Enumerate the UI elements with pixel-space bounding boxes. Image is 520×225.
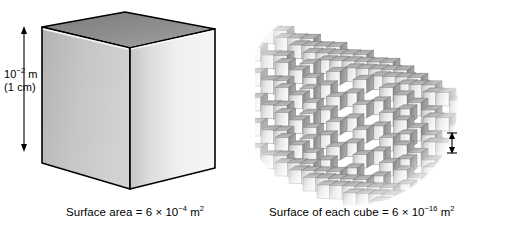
left-dimension-label: 10−2 m (1 cm): [4, 68, 38, 94]
figure-root: 10−2 m (1 cm) Surface area = 6 × 10−4 m2: [0, 0, 520, 224]
small-cube-front: [261, 130, 275, 144]
right-caption-prefix: Surface of each cube = 6 × 10: [269, 206, 425, 218]
left-caption-suffix: m: [187, 206, 200, 218]
left-dimension-primary: 10−2 m: [4, 68, 38, 81]
small-cube-front: [450, 100, 464, 114]
small-cube-front: [317, 185, 331, 199]
small-cube-front: [261, 55, 275, 69]
small-cube-front: [275, 88, 289, 102]
left-dimension-exponent: −2: [16, 66, 25, 75]
small-cube-front: [255, 23, 261, 37]
right-caption-suffix: m: [437, 206, 450, 218]
left-caption-prefix: Surface area = 6 × 10: [66, 206, 178, 218]
left-dimension-secondary: (1 cm): [4, 81, 38, 94]
small-cube-front: [275, 113, 289, 127]
small-cube-front: [436, 143, 450, 157]
small-cube-front: [275, 138, 289, 152]
left-caption: Surface area = 6 × 10−4 m2: [66, 206, 204, 218]
small-cube-front: [450, 175, 464, 189]
small-cube-front: [261, 30, 275, 44]
small-cube-front: [436, 168, 450, 182]
cube-cluster-group: [255, 18, 470, 224]
small-cube-front: [436, 193, 450, 207]
small-cube: [450, 96, 471, 114]
small-cube-front: [330, 186, 344, 200]
small-cube-front: [261, 105, 275, 119]
small-cube-front: [356, 194, 370, 208]
single-cube-panel: 10−2 m (1 cm) Surface area = 6 × 10−4 m2: [0, 0, 255, 224]
small-cube-front: [275, 38, 289, 52]
right-caption-suffix-exponent: 2: [450, 204, 454, 213]
small-cube-front: [303, 178, 317, 192]
left-caption-exponent: −4: [178, 204, 187, 213]
subdivided-cubes-panel: 10−8 m (10−6 cm): [255, 0, 520, 224]
cube-cluster-illustration: [255, 0, 520, 224]
small-cube-front: [255, 98, 261, 112]
right-caption-exponent: −16: [425, 204, 438, 213]
left-dimension-unit: m: [25, 68, 37, 80]
small-cube-front: [289, 170, 303, 184]
small-cube-front: [436, 118, 450, 132]
small-cube-front: [436, 93, 450, 107]
small-cube-front: [344, 193, 358, 207]
small-cube-front: [261, 155, 275, 169]
right-caption: Surface of each cube = 6 × 10−16 m2: [269, 206, 455, 218]
cube-front-face: [130, 29, 215, 189]
small-cube-front: [275, 63, 289, 77]
small-cube-front: [255, 148, 261, 162]
small-cube-front: [423, 217, 437, 224]
small-cube-front: [255, 48, 261, 62]
left-caption-suffix-exponent: 2: [200, 204, 204, 213]
large-cube-illustration: [0, 0, 255, 224]
small-cube-front: [255, 123, 261, 137]
cube-left-face: [42, 27, 130, 189]
small-cube-front: [261, 80, 275, 94]
small-cubes: [255, 18, 470, 224]
small-cube: [450, 171, 471, 189]
small-cube-front: [275, 163, 289, 177]
small-cube-front: [436, 218, 450, 225]
small-cube-front: [255, 73, 261, 87]
